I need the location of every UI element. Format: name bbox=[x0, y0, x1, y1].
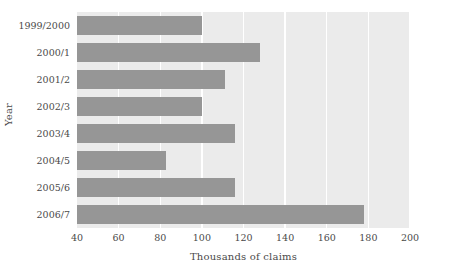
y-axis-title: Year bbox=[0, 0, 18, 228]
x-axis-tick-label: 40 bbox=[71, 232, 83, 243]
y-axis-tick-label: 2000/1 bbox=[18, 39, 75, 66]
bar-chart: Year 1999/20002000/12001/22002/32003/420… bbox=[0, 0, 454, 274]
y-axis-tick-label: 2002/3 bbox=[18, 93, 75, 120]
bar bbox=[77, 151, 166, 170]
x-axis-tick-label: 200 bbox=[401, 232, 419, 243]
y-axis-title-label: Year bbox=[4, 102, 15, 125]
x-axis-tick-label: 140 bbox=[276, 232, 294, 243]
bars-container bbox=[77, 12, 410, 228]
y-axis-tick-label: 2004/5 bbox=[18, 147, 75, 174]
x-axis-title: Thousands of claims bbox=[77, 251, 410, 262]
bar bbox=[77, 16, 202, 35]
y-axis-tick-label: 1999/2000 bbox=[18, 12, 75, 39]
y-axis-tick-label: 2006/7 bbox=[18, 201, 75, 228]
plot-area bbox=[77, 12, 410, 228]
x-axis-tick-labels: 406080100120140160180200 bbox=[77, 232, 410, 246]
bar-row bbox=[77, 147, 410, 174]
bar bbox=[77, 43, 260, 62]
y-axis-tick-label: 2005/6 bbox=[18, 174, 75, 201]
y-axis-tick-label: 2003/4 bbox=[18, 120, 75, 147]
bar-row bbox=[77, 174, 410, 201]
bar-row bbox=[77, 66, 410, 93]
bar-row bbox=[77, 120, 410, 147]
bar-row bbox=[77, 39, 410, 66]
bar bbox=[77, 205, 364, 224]
y-axis-tick-label: 2001/2 bbox=[18, 66, 75, 93]
bar bbox=[77, 70, 225, 89]
bar-row bbox=[77, 93, 410, 120]
bar-row bbox=[77, 12, 410, 39]
y-axis-tick-labels: 1999/20002000/12001/22002/32003/42004/52… bbox=[18, 12, 75, 228]
x-axis-tick-label: 60 bbox=[113, 232, 125, 243]
x-axis-tick-label: 80 bbox=[154, 232, 166, 243]
x-axis-tick-label: 100 bbox=[193, 232, 211, 243]
x-axis-tick-label: 160 bbox=[318, 232, 336, 243]
bar bbox=[77, 178, 235, 197]
bar bbox=[77, 97, 202, 116]
bar bbox=[77, 124, 235, 143]
bar-row bbox=[77, 201, 410, 228]
x-axis-tick-label: 120 bbox=[234, 232, 252, 243]
x-axis-tick-label: 180 bbox=[359, 232, 377, 243]
